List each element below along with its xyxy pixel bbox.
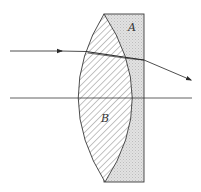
label-b: B: [101, 113, 109, 124]
emergent-ray: [144, 60, 191, 80]
incident-ray-continuation: [60, 51, 86, 52]
lens-diagram: A B: [0, 0, 201, 192]
diagram-canvas: [0, 0, 201, 192]
label-a: A: [128, 22, 136, 33]
